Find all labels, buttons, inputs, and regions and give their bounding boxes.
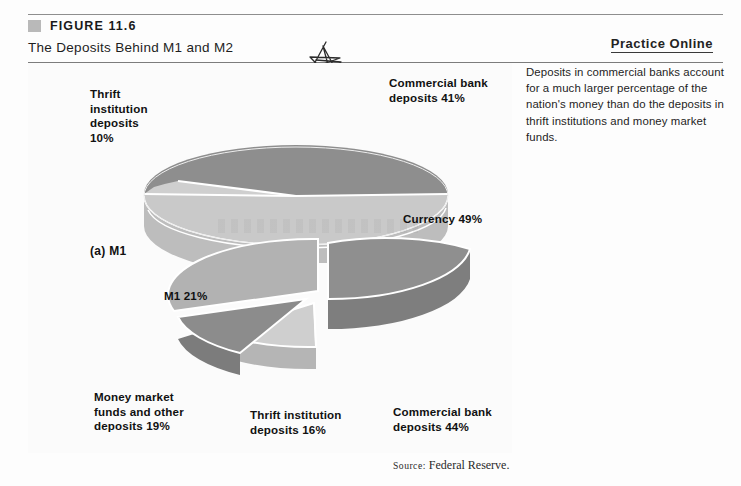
label-pie2-thrift-line2: deposits 16% [250,423,326,436]
chart-area: Thrift institution deposits 10% Commerci… [28,63,512,453]
figure-side-note: Deposits in commercial banks account for… [526,64,732,145]
figure-number-line: FIGURE 11.6 [28,19,136,33]
charts-panel: Thrift institution deposits 10% Commerci… [28,63,512,453]
figure-subtitle: The Deposits Behind M1 and M2 [28,40,233,55]
figure-number: FIGURE 11.6 [50,19,136,33]
label-pie2-money-line1: Money market [94,390,174,403]
label-pie2-thrift: Thrift institution deposits 16% [250,408,342,437]
source-prefix: Source: [393,460,426,471]
label-pie2-money-market: Money market funds and other deposits 19… [94,390,184,434]
practice-online-link[interactable]: Practice Online [611,36,713,53]
figure-page: FIGURE 11.6 The Deposits Behind M1 and M… [0,0,741,486]
label-pie2-commercial-bank: Commercial bank deposits 44% [393,405,492,434]
label-pie1-thrift-line4: 10% [90,131,114,144]
label-pie1-commercial-line1: Commercial bank [389,76,488,89]
pie2-wedge-commercial-bank [324,238,470,363]
source-line: Source: Federal Reserve. [393,458,509,473]
label-pie1-commercial-line2: deposits 41% [389,91,465,104]
source-text: Federal Reserve. [429,458,510,472]
label-pie2-commercial-line2: deposits 44% [393,420,469,433]
figure-bullet-icon [28,20,41,32]
label-pie1-currency: Currency 49% [403,212,482,227]
label-pie2-thrift-line1: Thrift institution [250,408,342,421]
caption-panel-a: (a) M1 [90,244,126,258]
scan-bleed-artifact [218,219,418,233]
header-rule-top [28,14,723,15]
label-pie2-m1: M1 21% [164,289,207,304]
label-pie2-money-line2: funds and other [94,405,184,418]
label-pie1-thrift-line2: institution [90,102,148,115]
label-pie1-thrift-line1: Thrift [90,87,121,100]
label-pie1-thrift-line3: deposits [90,116,139,129]
label-pie2-money-line3: deposits 19% [94,419,170,432]
label-pie1-commercial-bank: Commercial bank deposits 41% [389,76,488,105]
label-pie2-commercial-line1: Commercial bank [393,405,492,418]
label-pie1-thrift: Thrift institution deposits 10% [90,87,148,145]
